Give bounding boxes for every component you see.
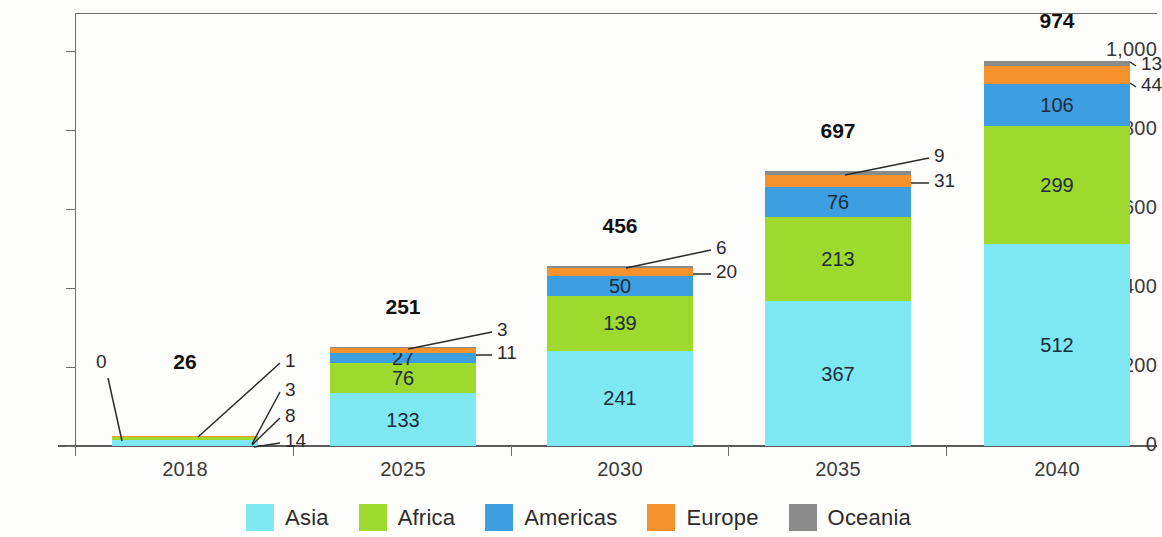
chart-legend: AsiaAfricaAmericasEuropeOceania [0,498,1157,537]
y-tick-mark [66,51,76,52]
bar-segment-2035-africa[interactable] [765,217,911,301]
bar-segment-2018-asia[interactable] [112,440,258,446]
bar-segment-2035-oceania[interactable] [765,171,911,175]
bar-segment-2025-asia[interactable] [330,393,476,446]
bar-segment-2040-asia[interactable] [984,244,1130,446]
callout-2025-europe: 11 [497,342,517,364]
bar-2018[interactable] [112,436,258,446]
x-tick-label-2025: 2025 [328,458,478,481]
x-tick-label-2030: 2030 [545,458,695,481]
legend-item-asia[interactable]: Asia [246,504,329,531]
bar-segment-2025-oceania[interactable] [330,347,476,348]
legend-swatch-oceania [789,504,817,531]
bar-segment-2040-africa[interactable] [984,126,1130,244]
x-tick-label-2018: 2018 [110,458,260,481]
x-tick-mark [946,446,947,456]
bar-2035[interactable]: 36721376 [765,171,911,446]
bar-segment-2030-asia[interactable] [547,351,693,446]
callout-2018-africa: 8 [285,405,296,427]
y-tick-mark [66,367,76,368]
callout-2018-asia: 14 [285,430,306,452]
bar-segment-2030-europe[interactable] [547,268,693,276]
bar-total-2018: 26 [112,350,258,374]
legend-swatch-americas [485,504,513,531]
callout-2025-oceania: 3 [497,319,508,341]
callout-2030-oceania: 6 [716,237,727,259]
legend-swatch-africa [359,504,387,531]
bar-segment-2025-europe[interactable] [330,348,476,352]
bar-segment-2018-africa[interactable] [112,437,258,440]
bar-total-2030: 456 [547,214,693,238]
legend-label: Europe [686,505,758,531]
bar-segment-2025-americas[interactable] [330,353,476,364]
callout-2018-europe: 1 [285,350,296,372]
legend-swatch-asia [246,504,274,531]
bar-segment-2030-oceania[interactable] [547,266,693,268]
bar-total-2025: 251 [330,295,476,319]
callout-2030-europe: 20 [716,261,737,283]
legend-label: Oceania [828,505,911,531]
bar-segment-2035-europe[interactable] [765,175,911,187]
legend-label: Americas [524,505,617,531]
legend-item-oceania[interactable]: Oceania [789,504,911,531]
callout-2040-oceania: 13 [1141,53,1162,75]
y-tick-mark [66,209,76,210]
bar-total-2040: 974 [984,9,1130,33]
bar-segment-2030-africa[interactable] [547,296,693,351]
legend-item-americas[interactable]: Americas [485,504,617,531]
bar-2040[interactable]: 512299106 [984,61,1130,446]
legend-label: Asia [285,505,329,531]
bar-segment-2035-asia[interactable] [765,301,911,446]
callout-2018-americas: 3 [285,379,296,401]
bar-total-2035: 697 [765,119,911,143]
x-tick-label-2040: 2040 [982,458,1132,481]
callout-2035-oceania: 9 [934,145,945,167]
bar-segment-2018-americas[interactable] [112,436,258,437]
legend-item-africa[interactable]: Africa [359,504,455,531]
y-tick-mark [66,288,76,289]
callout-2018-oceania: 0 [96,351,107,373]
x-tick-mark [728,446,729,456]
bar-segment-2040-americas[interactable] [984,84,1130,126]
x-tick-label-2035: 2035 [763,458,913,481]
x-tick-mark [511,446,512,456]
x-tick-mark [75,446,76,456]
callout-2035-europe: 31 [934,170,955,192]
legend-swatch-europe [647,504,675,531]
bar-segment-2035-americas[interactable] [765,187,911,217]
bar-2030[interactable]: 24113950 [547,266,693,446]
bar-segment-2040-oceania[interactable] [984,61,1130,66]
y-tick-mark [66,130,76,131]
bar-segment-2040-europe[interactable] [984,66,1130,83]
legend-item-europe[interactable]: Europe [647,504,758,531]
bar-segment-2025-africa[interactable] [330,363,476,393]
bar-2025[interactable]: 1337627 [330,347,476,446]
legend-label: Africa [398,505,455,531]
bar-segment-2030-americas[interactable] [547,276,693,296]
callout-2040-europe: 44 [1141,74,1162,96]
